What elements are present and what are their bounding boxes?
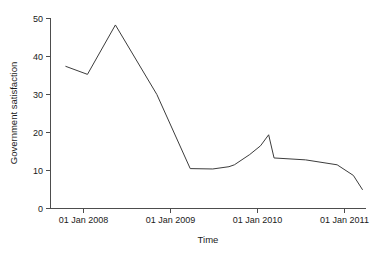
y-tick-label-30: 30 [33, 90, 43, 100]
x-tick-label-2011: 01 Jan 2011 [320, 215, 369, 225]
x-axis-title: Time [198, 234, 219, 245]
y-tick-label-50: 50 [33, 14, 43, 24]
y-tick-label-10: 10 [33, 166, 43, 176]
x-tick-label-2009: 01 Jan 2009 [146, 215, 196, 225]
x-axis-ticks [84, 209, 345, 214]
y-tick-label-20: 20 [33, 128, 43, 138]
x-tick-label-2010: 01 Jan 2010 [233, 215, 283, 225]
x-tick-label-2008: 01 Jan 2008 [59, 215, 109, 225]
chart-container: 0 10 20 30 40 50 01 Jan 2008 01 Jan 2009… [0, 0, 382, 257]
y-axis-ticks [46, 19, 51, 209]
line-chart-svg: 0 10 20 30 40 50 01 Jan 2008 01 Jan 2009… [0, 0, 382, 257]
y-tick-label-40: 40 [33, 52, 43, 62]
y-tick-label-0: 0 [38, 204, 43, 214]
y-axis-title: Government satisfaction [8, 62, 19, 164]
data-series-line [66, 25, 363, 190]
